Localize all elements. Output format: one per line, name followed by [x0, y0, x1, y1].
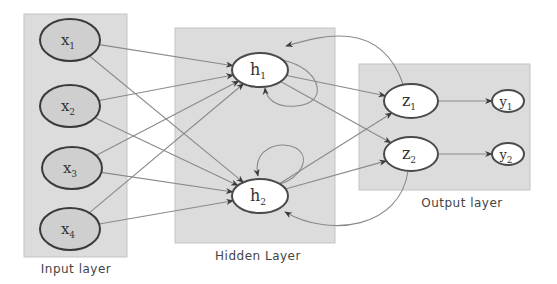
rnn-diagram: x1x2x3x4h1h2z1z2y1y2 Input layer Hidden …: [0, 0, 557, 284]
node-x2: x2: [40, 85, 100, 127]
output-layer-label: Output layer: [421, 196, 503, 210]
node-z2: z2: [384, 137, 438, 171]
node-y1: y1: [492, 90, 524, 112]
node-x3-circle: [42, 147, 102, 189]
node-x2-circle: [40, 85, 100, 127]
node-z1: z1: [384, 84, 438, 118]
node-x4-circle: [40, 208, 100, 250]
node-z2-circle: [384, 137, 438, 171]
node-x4: x4: [40, 208, 100, 250]
output-layer-box: [359, 64, 530, 190]
node-x3: x3: [42, 147, 102, 189]
node-x1: x1: [40, 19, 100, 61]
hidden-layer-label: Hidden Layer: [215, 249, 301, 263]
input-layer-label: Input layer: [41, 262, 112, 276]
node-x1-circle: [40, 19, 100, 61]
node-y2: y2: [492, 143, 524, 165]
node-h1: h1: [232, 53, 288, 87]
node-z1-circle: [384, 84, 438, 118]
node-h2: h2: [232, 179, 288, 213]
